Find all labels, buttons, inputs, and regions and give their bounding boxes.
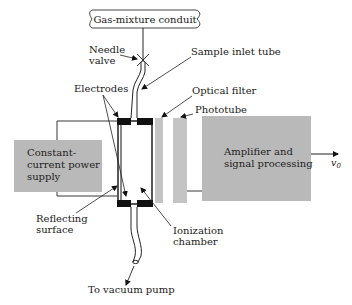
phototube-leader <box>181 114 193 117</box>
sample-inlet-label: Sample inlet tube <box>191 46 281 57</box>
amplifier-label-2: signal processing <box>224 158 313 169</box>
sample-inlet-leader <box>142 57 191 89</box>
reflecting-surface-label-1: Reflecting <box>36 213 88 224</box>
amplifier-box: Amplifier and signal processing <box>202 116 313 201</box>
optical-filter-label: Optical filter <box>192 85 257 96</box>
gas-mixture-conduit: Gas-mixture conduit <box>90 10 200 28</box>
power-supply-label-1: Constant- <box>27 147 76 158</box>
electrode-bottom-left <box>117 200 131 207</box>
electrode-bottom-right <box>137 200 153 207</box>
conduit-label: Gas-mixture conduit <box>93 14 196 25</box>
amplifier-label-1: Amplifier and <box>223 146 293 157</box>
phototube <box>173 118 187 203</box>
ionization-chamber-label-1: Ionization <box>173 225 224 236</box>
vacuum-pump-label: To vacuum pump <box>88 284 175 295</box>
optical-filter <box>155 118 163 203</box>
needle-valve-leader <box>120 55 137 59</box>
sample-inlet-tube <box>131 62 145 118</box>
phototube-label: Phototube <box>195 104 247 115</box>
ionization-chamber <box>117 118 153 207</box>
vacuum-arrow <box>126 266 134 285</box>
diagram-svg: Gas-mixture conduit Amplifier and signa <box>0 0 352 305</box>
diagram-canvas: Gas-mixture conduit Amplifier and signa <box>0 0 352 305</box>
ionization-chamber-label-2: chamber <box>173 236 218 247</box>
output-label: v0 <box>331 157 341 170</box>
needle-valve-label-2: valve <box>88 55 115 66</box>
needle-valve-label-1: Needle <box>89 44 125 55</box>
electrode-top-left <box>117 118 131 125</box>
outlet-tube <box>131 207 141 264</box>
reflecting-surface-label-2: surface <box>36 224 74 235</box>
optical-filter-leader <box>162 96 192 117</box>
power-supply-box: Constant- current power supply <box>14 140 102 192</box>
electrode-top-right <box>137 118 153 125</box>
power-supply-label-3: supply <box>27 171 61 182</box>
power-supply-label-2: current power <box>27 159 100 170</box>
electrodes-label: Electrodes <box>74 83 128 94</box>
